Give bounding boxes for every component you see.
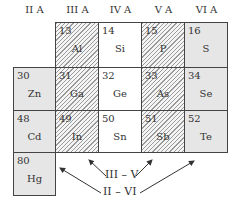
label-ii-vi: II – VI xyxy=(103,185,136,198)
arrow-ii-vi-left xyxy=(60,168,101,193)
arrow-iii-v-left xyxy=(89,160,106,176)
arrow-ii-vi-right xyxy=(140,161,194,193)
label-iii-v: III – V xyxy=(105,168,138,181)
